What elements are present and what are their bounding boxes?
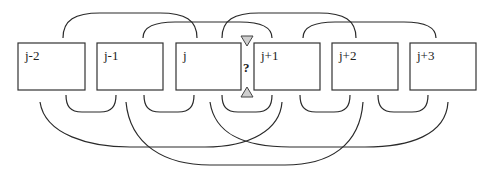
top-arcs xyxy=(63,13,436,38)
linkage-diagram: j-2 j-1 j j+1 j+2 j+3 ? xyxy=(0,0,493,172)
gap-marker: ? xyxy=(241,36,253,97)
box-label: j+3 xyxy=(416,48,434,63)
box-j+3: j+3 xyxy=(410,43,476,90)
bottom-arc-j+2-to-j+3 xyxy=(378,95,428,112)
bottom-arc-j-2-to-j-1 xyxy=(66,95,116,112)
top-arc-j-2-to-j xyxy=(63,13,197,38)
box-label: j-1 xyxy=(103,48,118,63)
box-j+1: j+1 xyxy=(254,43,320,90)
question-mark: ? xyxy=(243,60,250,75)
box-label: j+1 xyxy=(260,48,278,63)
box-j: j xyxy=(176,43,241,90)
box-j+2: j+2 xyxy=(332,43,398,90)
box-label: j+2 xyxy=(338,48,356,63)
bottom-arc-j-1-to-j xyxy=(144,95,194,112)
top-arc-j-to-j+2 xyxy=(222,13,356,38)
bottom-short-arcs xyxy=(66,95,428,112)
triangle-up-icon xyxy=(241,87,253,97)
bottom-arc-j+1-to-j+2 xyxy=(300,95,350,112)
triangle-down-icon xyxy=(241,36,253,46)
bottom-long-arc-j-2-to-j+1 xyxy=(40,102,282,147)
top-arc-j+1-to-j+3 xyxy=(303,22,436,38)
bottom-arc-j-to-j+1 xyxy=(222,95,272,112)
box-label: j xyxy=(182,48,187,63)
box-j-2: j-2 xyxy=(18,43,85,90)
box-label: j-2 xyxy=(24,48,39,63)
bottom-long-arc-j-to-j+3 xyxy=(210,102,448,147)
box-j-1: j-1 xyxy=(97,43,163,90)
